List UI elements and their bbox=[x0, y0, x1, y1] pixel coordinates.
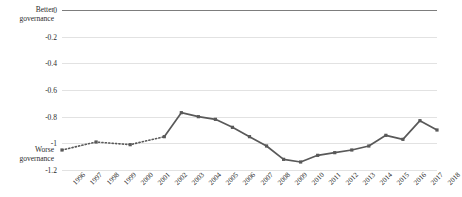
data-point-marker bbox=[248, 135, 251, 138]
data-point-marker bbox=[129, 143, 132, 146]
y-axis-tick-label: -1 bbox=[51, 139, 57, 148]
data-point-marker bbox=[282, 158, 285, 161]
x-axis-tick-label: 2014 bbox=[378, 171, 394, 187]
data-point-marker bbox=[435, 128, 438, 131]
data-point-marker bbox=[299, 160, 302, 163]
data-point-marker bbox=[350, 148, 353, 151]
x-axis-tick-label: 1998 bbox=[105, 171, 121, 187]
y-axis-tick-label: -0.8 bbox=[45, 112, 57, 121]
data-point-marker bbox=[60, 148, 63, 151]
x-axis-tick-label: 2010 bbox=[310, 171, 326, 187]
x-axis-tick-label: 1999 bbox=[122, 171, 138, 187]
data-point-marker bbox=[265, 144, 268, 147]
x-axis-tick-label: 2018 bbox=[446, 171, 462, 187]
y-axis-tick-label: -0.6 bbox=[45, 86, 57, 95]
x-axis-tick-label: 2015 bbox=[395, 171, 411, 187]
data-point-marker bbox=[231, 126, 234, 129]
x-axis-tick-label: 2005 bbox=[225, 171, 241, 187]
x-axis-tick-label: 2009 bbox=[293, 171, 309, 187]
x-axis-tick-label: 2000 bbox=[139, 171, 155, 187]
x-axis-tick-label: 2006 bbox=[242, 171, 258, 187]
y-axis-tick-label: -1.2 bbox=[45, 166, 57, 175]
better-governance-caption: Better governance bbox=[2, 6, 54, 24]
data-point-marker bbox=[418, 119, 421, 122]
x-axis-tick-label: 2008 bbox=[276, 171, 292, 187]
worse-governance-caption: Worse governance bbox=[2, 146, 54, 164]
plot-area: 0-0.2-0.4-0.6-0.8-1-1.2 bbox=[62, 10, 437, 170]
data-point-marker bbox=[401, 138, 404, 141]
x-axis-tick-label: 2003 bbox=[191, 171, 207, 187]
x-axis-tick-label: 1996 bbox=[71, 171, 87, 187]
data-point-marker bbox=[163, 135, 166, 138]
data-point-marker bbox=[384, 134, 387, 137]
y-axis-tick-label: -0.2 bbox=[45, 32, 57, 41]
x-axis-labels: 1996199719981999200020012002200320042005… bbox=[62, 171, 437, 197]
x-axis-tick-label: 2017 bbox=[429, 171, 445, 187]
x-axis-tick-label: 2004 bbox=[208, 171, 224, 187]
better-governance-line2: governance bbox=[2, 15, 54, 24]
series-line-dotted-segment bbox=[62, 137, 164, 150]
x-axis-tick-label: 1997 bbox=[88, 171, 104, 187]
data-point-marker bbox=[214, 118, 217, 121]
data-point-marker bbox=[316, 154, 319, 157]
worse-governance-line2: governance bbox=[2, 155, 54, 164]
x-axis-tick-label: 2002 bbox=[173, 171, 189, 187]
x-axis-tick-label: 2001 bbox=[156, 171, 172, 187]
x-axis-tick-label: 2013 bbox=[361, 171, 377, 187]
data-point-marker bbox=[367, 144, 370, 147]
data-point-marker bbox=[94, 140, 97, 143]
y-axis-tick-label: -0.4 bbox=[45, 59, 57, 68]
x-axis-tick-label: 2012 bbox=[344, 171, 360, 187]
x-axis-tick-label: 2007 bbox=[259, 171, 275, 187]
x-axis-tick-label: 2016 bbox=[412, 171, 428, 187]
data-point-marker bbox=[197, 115, 200, 118]
data-series-layer bbox=[62, 10, 437, 170]
data-point-marker bbox=[180, 111, 183, 114]
y-axis-tick-label: 0 bbox=[53, 6, 57, 15]
series-line-solid-segment bbox=[164, 113, 437, 162]
data-point-marker bbox=[333, 151, 336, 154]
x-axis-tick-label: 2011 bbox=[327, 171, 343, 187]
